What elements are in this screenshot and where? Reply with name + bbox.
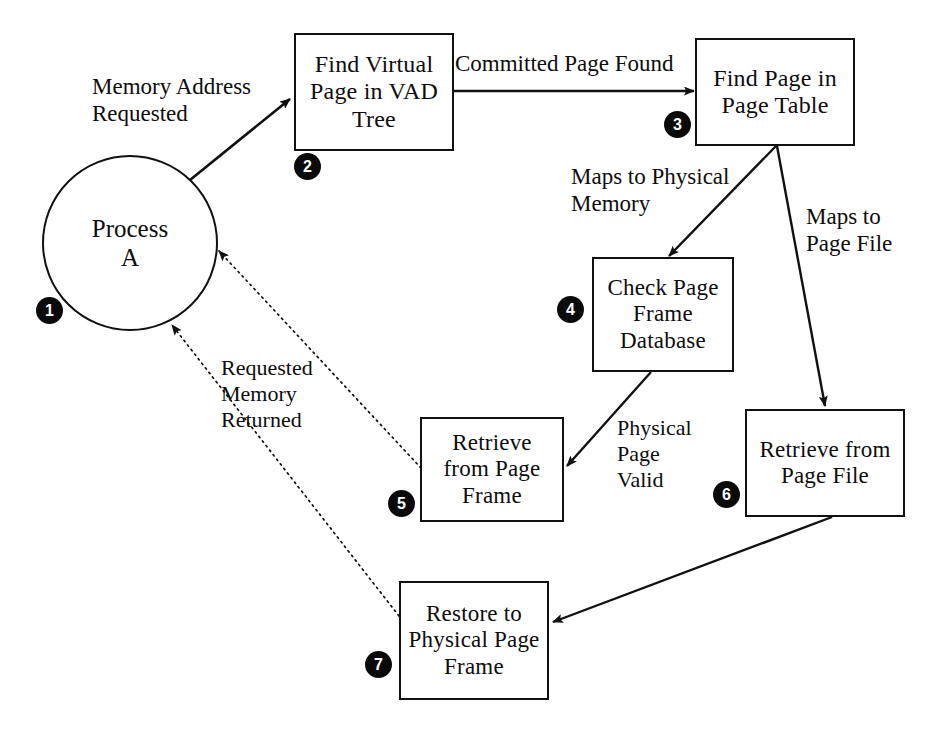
badge-7-label: 7 <box>374 657 383 673</box>
edge-pagefile-to-restore <box>553 517 832 622</box>
badge-2: 2 <box>294 153 321 180</box>
edge-label-physical-page-valid: Physical Page Valid <box>617 415 692 493</box>
node-process-a-label: Process A <box>92 214 168 273</box>
badge-3-label: 3 <box>673 117 682 133</box>
badge-7: 7 <box>365 651 392 678</box>
badge-6-label: 6 <box>722 487 731 503</box>
badge-4-label: 4 <box>566 302 575 318</box>
node-check-page-frame-database-label: Check Page Frame Database <box>607 275 718 354</box>
node-check-page-frame-database[interactable]: Check Page Frame Database <box>592 257 734 372</box>
badge-6: 6 <box>713 481 740 508</box>
edge-label-committed-page-found: Committed Page Found <box>455 50 674 77</box>
node-find-virtual-page-vad[interactable]: Find Virtual Page in VAD Tree <box>294 33 454 151</box>
node-retrieve-from-page-frame-label: Retrieve from Page Frame <box>444 430 541 509</box>
badge-5-label: 5 <box>397 496 406 512</box>
node-find-page-in-page-table-label: Find Page in Page Table <box>713 65 837 120</box>
node-retrieve-from-page-frame[interactable]: Retrieve from Page Frame <box>420 417 564 522</box>
node-retrieve-from-page-file[interactable]: Retrieve from Page File <box>745 409 905 517</box>
edge-pagetable-to-pagefile <box>777 146 825 406</box>
badge-2-label: 2 <box>303 159 312 175</box>
node-find-virtual-page-vad-label: Find Virtual Page in VAD Tree <box>310 51 438 133</box>
edge-label-requested-memory-returned: Requested Memory Returned <box>221 355 313 433</box>
edge-label-maps-to-physical-memory: Maps to Physical Memory <box>571 163 729 217</box>
node-process-a[interactable]: Process A <box>42 155 218 331</box>
badge-4: 4 <box>557 296 584 323</box>
paging-flow-diagram: Process A 1 Find Virtual Page in VAD Tre… <box>0 0 933 734</box>
node-retrieve-from-page-file-label: Retrieve from Page File <box>760 437 891 489</box>
badge-3: 3 <box>664 111 691 138</box>
edge-label-memory-address-requested: Memory Address Requested <box>92 73 251 127</box>
badge-1-label: 1 <box>45 303 54 319</box>
badge-1: 1 <box>36 297 63 324</box>
node-restore-to-physical-page-frame-label: Restore to Physical Page Frame <box>409 601 540 680</box>
badge-5: 5 <box>388 490 415 517</box>
edge-label-maps-to-page-file: Maps to Page File <box>806 203 892 257</box>
node-restore-to-physical-page-frame[interactable]: Restore to Physical Page Frame <box>399 581 549 700</box>
node-find-page-in-page-table[interactable]: Find Page in Page Table <box>695 38 855 146</box>
